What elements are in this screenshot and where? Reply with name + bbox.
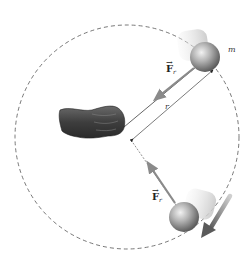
force-label-top: → Fr	[166, 64, 176, 75]
force-arrow-top	[158, 68, 194, 97]
diagram-canvas	[0, 0, 250, 253]
radius-dimension	[133, 70, 213, 139]
ball-top	[190, 42, 220, 72]
force-subscript: r	[159, 196, 162, 203]
circular-motion-diagram: → Fr → Fr r m	[0, 0, 250, 253]
force-label-bottom: → Fr	[152, 192, 162, 203]
vector-mark: →	[152, 187, 159, 195]
radius-label: r	[165, 103, 169, 111]
hand-icon	[59, 106, 125, 138]
vector-mark: →	[166, 59, 173, 67]
ball-bottom	[169, 202, 199, 232]
force-subscript: r	[173, 68, 176, 75]
mass-label: m	[228, 46, 236, 54]
